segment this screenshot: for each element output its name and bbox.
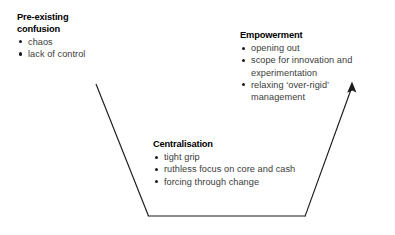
bullet-list: opening out scope for innovation and exp… [240,42,375,103]
funnel-left-line [96,84,149,216]
block-heading: Pre-existing confusion [17,12,147,35]
block-empowerment: Empowerment opening out scope for innova… [240,30,375,103]
block-pre-existing-confusion: Pre-existing confusion chaos lack of con… [17,12,147,60]
list-item: forcing through change [153,176,328,188]
block-heading: Empowerment [240,30,375,42]
bullet-list: chaos lack of control [17,36,147,60]
list-item: scope for innovation and experimentation [240,54,375,78]
list-item: lack of control [17,48,147,60]
block-centralisation: Centralisation tight grip ruthless focus… [153,139,328,188]
diagram-canvas: Pre-existing confusion chaos lack of con… [0,0,395,235]
list-item: tight grip [153,151,328,163]
bullet-list: tight grip ruthless focus on core and ca… [153,151,328,188]
list-item: ruthless focus on core and cash [153,163,328,175]
list-item: opening out [240,42,375,54]
list-item: relaxing ‘over-rigid’ management [240,79,375,103]
list-item: chaos [17,36,147,48]
block-heading: Centralisation [153,139,328,151]
